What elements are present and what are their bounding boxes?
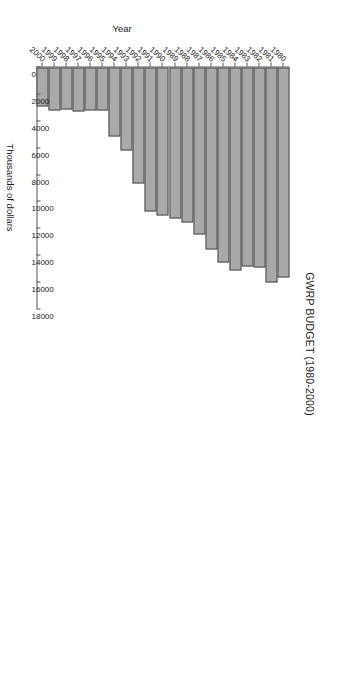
bar-1981 xyxy=(265,67,277,282)
bar-row xyxy=(229,67,241,309)
bar-row xyxy=(120,67,132,309)
value-tick xyxy=(36,66,40,67)
value-tick xyxy=(36,200,40,201)
bar-row xyxy=(157,67,169,309)
bar-1992 xyxy=(132,67,144,183)
value-tick xyxy=(36,147,40,148)
bar-1985 xyxy=(217,67,229,262)
value-tick xyxy=(36,93,40,94)
bar-1982 xyxy=(253,67,265,267)
bar-row xyxy=(181,67,193,309)
bar-row xyxy=(217,67,229,309)
category-axis-title: Year xyxy=(112,22,131,33)
value-label-12000: 12000 xyxy=(31,230,53,239)
bar-row xyxy=(265,67,277,309)
bar-row xyxy=(253,67,265,309)
bar-1986 xyxy=(205,67,217,249)
bar-row xyxy=(60,67,72,309)
value-label-16000: 16000 xyxy=(31,284,53,293)
chart-title: GWRP BUDGET (1980-2000) xyxy=(303,0,315,687)
value-label-6000: 6000 xyxy=(31,150,49,159)
bar-1984 xyxy=(229,67,241,270)
plot-area: 1980198119821983198419851986198719881989… xyxy=(36,66,289,308)
bar-row xyxy=(84,67,96,309)
bar-1980 xyxy=(277,67,289,277)
value-label-10000: 10000 xyxy=(31,203,53,212)
value-axis-title: Thousands of dollars xyxy=(4,66,15,308)
bar-1993 xyxy=(120,67,132,150)
value-label-8000: 8000 xyxy=(31,177,49,186)
bar-1991 xyxy=(144,67,156,211)
bar-row xyxy=(169,67,181,309)
bar-1995 xyxy=(96,67,108,110)
bar-1994 xyxy=(108,67,120,136)
value-label-0: 0 xyxy=(31,69,35,78)
bar-row xyxy=(277,67,289,309)
bar-1987 xyxy=(193,67,205,234)
bar-row xyxy=(193,67,205,309)
value-label-14000: 14000 xyxy=(31,257,53,266)
value-label-4000: 4000 xyxy=(31,123,49,132)
value-tick xyxy=(36,281,40,282)
bar-row xyxy=(205,67,217,309)
bar-row xyxy=(132,67,144,309)
bar-1997 xyxy=(72,67,84,111)
bar-1988 xyxy=(181,67,193,222)
bar-row xyxy=(108,67,120,309)
rotated-figure-canvas: GWRP BUDGET (1980-2000) 1980198119821983… xyxy=(0,0,337,687)
bar-row xyxy=(48,67,60,309)
value-tick xyxy=(36,227,40,228)
value-tick xyxy=(36,308,40,309)
value-tick xyxy=(36,120,40,121)
bar-row xyxy=(144,67,156,309)
value-label-18000: 18000 xyxy=(31,311,53,320)
bar-1983 xyxy=(241,67,253,266)
bar-1996 xyxy=(84,67,96,110)
chart-page: GWRP BUDGET (1980-2000) 1980198119821983… xyxy=(0,0,337,687)
bar-row xyxy=(241,67,253,309)
bar-series xyxy=(36,67,289,308)
bar-chart-figure: GWRP BUDGET (1980-2000) 1980198119821983… xyxy=(0,0,337,687)
bar-1999 xyxy=(48,67,60,110)
bar-row xyxy=(96,67,108,309)
value-tick xyxy=(36,254,40,255)
bar-1989 xyxy=(169,67,181,218)
value-tick xyxy=(36,174,40,175)
bar-1998 xyxy=(60,67,72,109)
bar-1990 xyxy=(157,67,169,215)
bar-row xyxy=(72,67,84,309)
plot-inner: 1980198119821983198419851986198719881989… xyxy=(36,66,289,308)
value-label-2000: 2000 xyxy=(31,96,49,105)
